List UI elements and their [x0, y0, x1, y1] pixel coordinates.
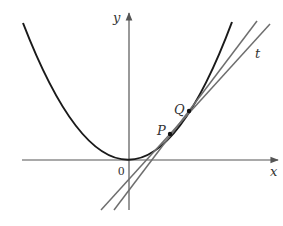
- point-q: [187, 109, 191, 113]
- parabola-curve: [23, 22, 232, 160]
- point-p: [168, 132, 172, 136]
- x-axis-label: x: [270, 164, 278, 179]
- point-q-label: Q: [174, 102, 185, 117]
- secant-line-pq: [114, 21, 257, 210]
- tangent-label: t: [255, 46, 261, 61]
- point-p-label: P: [156, 123, 166, 138]
- figure: y x 0 P Q t: [0, 0, 283, 226]
- y-axis-label: y: [112, 10, 121, 25]
- diagram-canvas: y x 0 P Q t: [0, 0, 283, 226]
- origin-label: 0: [118, 163, 125, 178]
- tangent-line-t: [101, 24, 270, 210]
